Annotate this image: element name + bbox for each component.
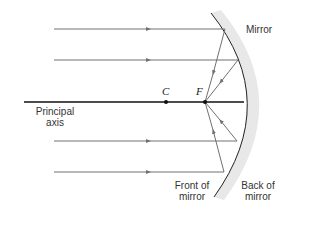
center-of-curvature-dot: [164, 100, 168, 104]
front-label-line2: mirror: [168, 191, 216, 202]
principal-axis-label: Principal axis: [30, 106, 80, 128]
focal-point-label: F: [196, 85, 203, 97]
incident-rays: [54, 29, 238, 172]
focal-point-dot: [203, 100, 207, 104]
mirror-label: Mirror: [246, 24, 272, 35]
principal-axis-label-line1: Principal: [30, 106, 80, 117]
back-label-line1: Back of: [234, 180, 282, 191]
reflected-rays: [205, 29, 238, 172]
back-label-line2: mirror: [234, 191, 282, 202]
front-of-mirror-label: Front of mirror: [168, 180, 216, 202]
center-of-curvature-label: C: [162, 85, 169, 97]
principal-axis-label-line2: axis: [30, 117, 80, 128]
front-label-line1: Front of: [168, 180, 216, 191]
back-of-mirror-label: Back of mirror: [234, 180, 282, 202]
